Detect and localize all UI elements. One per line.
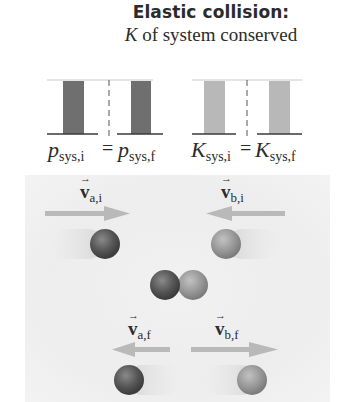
vector-arrow-icon: → bbox=[128, 309, 139, 321]
ball-a-collision bbox=[150, 270, 180, 300]
ball-b-collision bbox=[178, 270, 208, 300]
velocity-b-final-arrow bbox=[191, 342, 278, 357]
velocity-a-initial-arrow bbox=[45, 206, 130, 221]
collision-graphics bbox=[0, 0, 342, 402]
vector-arrow-icon: → bbox=[80, 172, 91, 184]
velocity-a-initial-label: →va,i bbox=[80, 181, 102, 203]
velocity-a-final-arrow bbox=[112, 342, 170, 357]
velocity-a-final-label: →va,f bbox=[128, 318, 151, 340]
ball-b-initial bbox=[211, 229, 241, 259]
velocity-b-initial-arrow bbox=[206, 206, 285, 221]
velocity-b-initial-label: →vb,i bbox=[221, 181, 244, 203]
ball-b-final bbox=[237, 365, 267, 395]
ball-a-final bbox=[114, 365, 144, 395]
vector-arrow-icon: → bbox=[221, 172, 232, 184]
velocity-b-final-label: →vb,f bbox=[215, 318, 239, 340]
vector-arrow-icon: → bbox=[215, 309, 226, 321]
ball-a-initial bbox=[90, 229, 120, 259]
